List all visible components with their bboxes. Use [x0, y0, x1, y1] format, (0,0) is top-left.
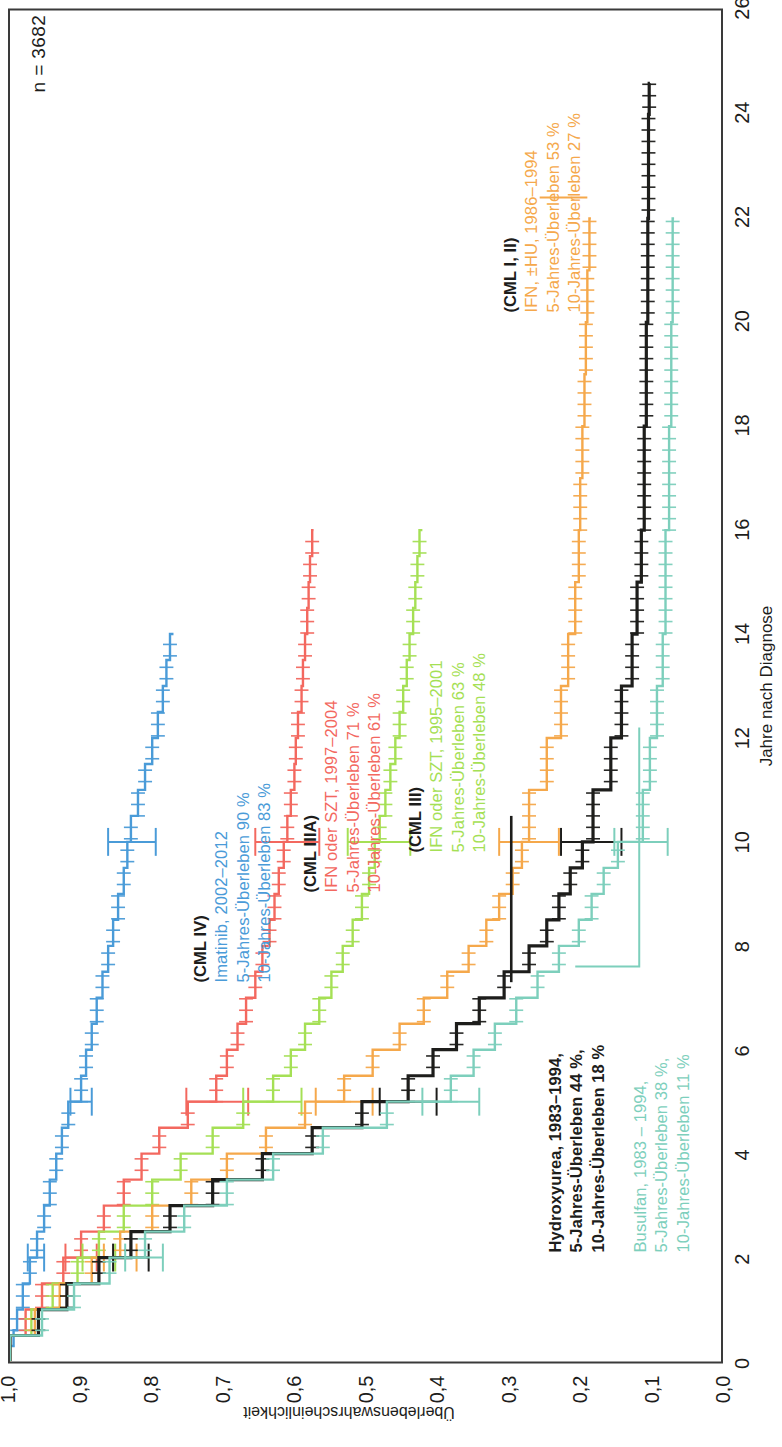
annotation-cml-iiia-line1: IFN oder SZT, 1997–2004: [321, 692, 342, 892]
x-axis-title: Jahre nach Diagnose: [757, 8, 777, 1363]
annotation-cml-i-ii-line2: 5-Jahres-Überleben 53 %: [543, 112, 564, 312]
x-tick-label: 2: [731, 1253, 754, 1264]
kaplan-meier-curves: [10, 10, 721, 1361]
y-tick-label: 0,7: [211, 1375, 234, 1403]
y-tick-label: 0,9: [68, 1375, 91, 1403]
x-tick-label: 0: [731, 1357, 754, 1368]
annotation-cml-iv-line3: 10-Jahres-Überleben 83 %: [254, 782, 275, 982]
survival-figure: n = 3682 02468101214161820222426 Jahre n…: [0, 0, 782, 1447]
y-tick-label: 0,5: [354, 1375, 377, 1403]
x-tick-label: 18: [731, 414, 754, 436]
annotation-cml-iv-line1: Imatinib, 2002–2012: [211, 782, 232, 982]
x-tick-label: 8: [731, 941, 754, 952]
plot-area: [8, 8, 723, 1363]
x-tick-label: 14: [731, 622, 754, 644]
x-tick-label: 4: [731, 1149, 754, 1160]
annotation-cml-iii-line2: 5-Jahres-Überleben 63 %: [448, 652, 469, 852]
annotation-cml-i-ii-line1: IFN, ±HU, 1986–1994: [521, 112, 542, 312]
annotation-hydroxyurea: Hydroxyurea, 1983–1994, 5-Jahres-Überleb…: [545, 1044, 609, 1252]
y-tick-label: 0,2: [569, 1375, 592, 1403]
x-tick-label: 6: [731, 1045, 754, 1056]
x-tick-label: 16: [731, 518, 754, 540]
x-tick-label: 24: [731, 101, 754, 123]
annotation-hydroxyurea-line2: 5-Jahres-Überleben 44 %,: [566, 1044, 587, 1252]
annotation-cml-iv: (CML IV) Imatinib, 2002–2012 5-Jahres-Üb…: [190, 782, 276, 982]
annotation-cml-i-ii-header: (CML I, II): [500, 112, 521, 312]
y-tick-label: 0,8: [140, 1375, 163, 1403]
annotation-hydroxyurea-line3: 10-Jahres-Überleben 18 %: [588, 1044, 609, 1252]
annotation-cml-i-ii: (CML I, II) IFN, ±HU, 1986–1994 5-Jahres…: [500, 112, 586, 312]
figure-page: n = 3682 02468101214161820222426 Jahre n…: [0, 0, 782, 1447]
annotation-cml-iii: (CML III) IFN oder SZT, 1995–2001 5-Jahr…: [405, 652, 491, 852]
annotation-cml-iiia: (CML IIIA) IFN oder SZT, 1997–2004 5-Jah…: [300, 692, 386, 892]
annotation-busulfan-line2: 5-Jahres-Überleben 38 %,: [651, 1054, 672, 1252]
annotation-cml-iiia-line2: 5-Jahres-Überleben 71 %: [343, 692, 364, 892]
y-tick-label: 0,4: [426, 1375, 449, 1403]
confidence-interval-10y: [561, 827, 621, 855]
x-tick-label: 22: [731, 205, 754, 227]
y-tick-label: 0,3: [497, 1375, 520, 1403]
annotation-cml-iii-line3: 10-Jahres-Überleben 48 %: [469, 652, 490, 852]
annotation-cml-iiia-header: (CML IIIA): [300, 692, 321, 892]
y-tick-label: 0,1: [640, 1375, 663, 1403]
annotation-cml-iii-line1: IFN oder SZT, 1995–2001: [426, 652, 447, 852]
annotation-hydroxyurea-line1: Hydroxyurea, 1983–1994,: [545, 1044, 566, 1252]
curve-cml4: [10, 634, 177, 1361]
x-tick-label: 10: [731, 831, 754, 853]
annotation-busulfan: Busulfan, 1983 – 1994, 5-Jahres-Überlebe…: [630, 1054, 694, 1252]
y-tick-label: 0,6: [283, 1375, 306, 1403]
x-tick-label: 26: [731, 0, 754, 19]
annotation-cml-iiia-line3: 10-Jahres-Überleben 61 %: [364, 692, 385, 892]
y-tick-label: 1,0: [0, 1375, 20, 1403]
x-tick-label: 12: [731, 727, 754, 749]
y-tick-label: 0,0: [712, 1375, 735, 1403]
sample-size-annotation: n = 3682: [28, 14, 50, 92]
annotation-busulfan-line1: Busulfan, 1983 – 1994,: [630, 1054, 651, 1252]
annotation-cml-iv-line2: 5-Jahres-Überleben 90 %: [233, 782, 254, 982]
annotation-busulfan-line3: 10-Jahres-Überleben 11 %: [673, 1054, 694, 1252]
annotation-cml-i-ii-line3: 10-Jahres-Überleben 27 %: [564, 112, 585, 312]
y-axis-title: Überlebenswahrscheinlichkeit: [0, 1403, 707, 1421]
annotation-cml-iv-header: (CML IV): [190, 782, 211, 982]
x-tick-label: 20: [731, 310, 754, 332]
rotated-figure-container: n = 3682 02468101214161820222426 Jahre n…: [0, 0, 782, 1447]
annotation-cml-iii-header: (CML III): [405, 652, 426, 852]
